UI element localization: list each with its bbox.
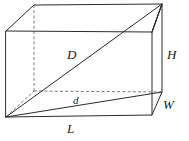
label-base-diagonal: d xyxy=(73,95,79,106)
label-space-diagonal: D xyxy=(67,48,76,61)
prism-figure: D d L W H xyxy=(0,0,189,141)
edge-top-face xyxy=(6,4,162,32)
label-length: L xyxy=(67,122,74,135)
label-height: H xyxy=(167,48,176,61)
space-diagonal-line xyxy=(6,4,162,117)
hidden-edge-back-bottom xyxy=(34,91,162,92)
edge-right-face xyxy=(152,4,162,115)
prism-drawing xyxy=(0,0,189,141)
edge-front-face xyxy=(6,31,152,117)
label-width: W xyxy=(163,98,174,111)
